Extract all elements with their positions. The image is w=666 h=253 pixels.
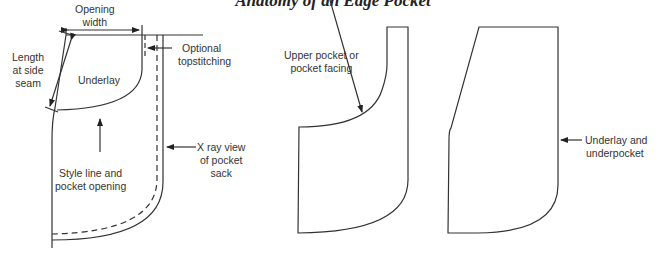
label-line: Length (12, 51, 44, 64)
side-seam (52, 35, 66, 248)
label-line: pocket facing (284, 62, 359, 75)
label-underlay-underpocket: Underlay and underpocket (585, 134, 647, 160)
label-line: underpocket (585, 147, 647, 160)
label-line: pocket opening (55, 180, 126, 193)
label-xray: X ray view of pocket sack (197, 141, 245, 180)
label-line: Underlay and (585, 134, 647, 147)
underlay-outline (448, 27, 558, 233)
pocket-sack-dashed (52, 35, 157, 234)
label-style-line: Style line and pocket opening (55, 167, 126, 193)
label-opening-width: Opening width (75, 3, 115, 29)
label-line: topstitching (178, 55, 231, 68)
label-line: X ray view (197, 141, 245, 154)
label-line: Opening (75, 3, 115, 16)
label-line: at side (12, 64, 44, 77)
label-line: width (75, 16, 115, 29)
label-length-side-seam: Length at side seam (12, 51, 44, 90)
label-line: Style line and (55, 167, 126, 180)
underlay-piece (448, 27, 582, 233)
label-upper-pocket: Upper pocket or pocket facing (284, 49, 359, 75)
label-line: seam (12, 77, 44, 90)
edge-pocket-diagram (0, 0, 666, 253)
label-line: of pocket (197, 154, 245, 167)
label-line: sack (197, 167, 245, 180)
label-underlay: Underlay (78, 74, 120, 87)
length-tick-bottom (45, 107, 58, 112)
style-line (57, 35, 142, 110)
label-optional-topstitching: Optional topstitching (178, 42, 231, 68)
length-arrow (50, 40, 71, 106)
pocket-sack-outer (52, 35, 163, 240)
label-line: Optional (178, 42, 231, 55)
label-line: Upper pocket or (284, 49, 359, 62)
upper-pocket-piece (298, 0, 408, 233)
